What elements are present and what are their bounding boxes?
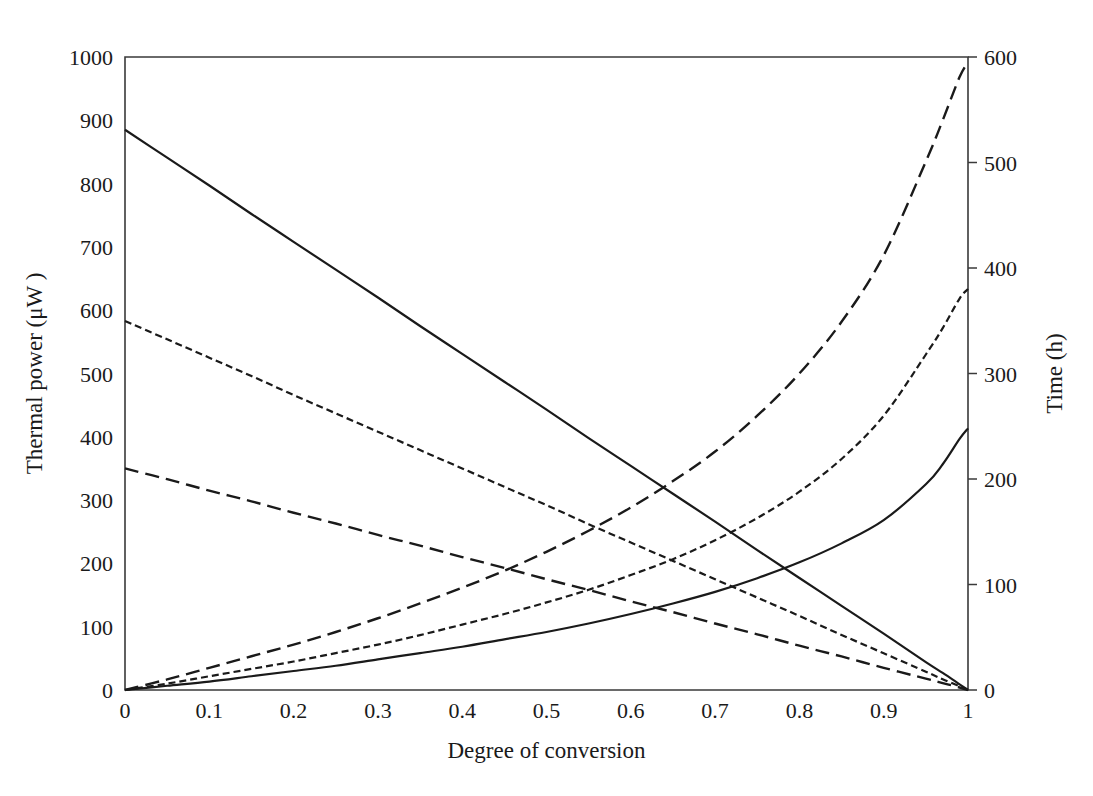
- y-left-tick-label: 1000: [69, 45, 113, 70]
- y-left-tick-label: 300: [80, 488, 113, 513]
- y-left-tick-label: 800: [80, 172, 113, 197]
- x-tick-label: 0.4: [448, 698, 476, 723]
- x-tick-label: 0.1: [196, 698, 224, 723]
- y-left-tick-label: 500: [80, 362, 113, 387]
- x-axis-title: Degree of conversion: [448, 738, 646, 763]
- chart-canvas: 00.10.20.30.40.50.60.70.80.9101002003004…: [0, 0, 1093, 796]
- y-right-axis-title: Time (h): [1042, 333, 1067, 413]
- x-tick-label: 0.2: [280, 698, 308, 723]
- y-right-tick-label: 0: [984, 678, 995, 703]
- y-left-tick-label: 600: [80, 298, 113, 323]
- series-line: [125, 130, 968, 690]
- x-tick-label: 0.9: [870, 698, 898, 723]
- y-left-tick-label: 0: [102, 678, 113, 703]
- y-right-tick-label: 300: [984, 362, 1017, 387]
- y-right-tick-label: 600: [984, 45, 1017, 70]
- x-tick-label: 0.6: [617, 698, 645, 723]
- axis-labels: 00.10.20.30.40.50.60.70.80.9101002003004…: [22, 45, 1067, 763]
- y-left-tick-label: 400: [80, 425, 113, 450]
- series-line: [125, 321, 968, 690]
- y-right-tick-label: 500: [984, 151, 1017, 176]
- series-line: [125, 289, 968, 690]
- y-left-tick-label: 100: [80, 615, 113, 640]
- y-left-tick-label: 900: [80, 108, 113, 133]
- plot-frame: [125, 57, 968, 690]
- x-tick-label: 1: [963, 698, 974, 723]
- y-right-tick-label: 400: [984, 256, 1017, 281]
- y-right-tick-label: 200: [984, 467, 1017, 492]
- x-tick-label: 0: [120, 698, 131, 723]
- plot-border: [125, 57, 968, 690]
- y-left-axis-title: Thermal power (μW ): [22, 273, 47, 475]
- x-tick-label: 0.3: [364, 698, 392, 723]
- series-line: [125, 428, 968, 690]
- y-left-tick-label: 700: [80, 235, 113, 260]
- x-tick-label: 0.8: [786, 698, 814, 723]
- axis-ticks: [968, 57, 977, 690]
- x-tick-label: 0.7: [701, 698, 729, 723]
- data-series: [125, 62, 968, 690]
- chart-figure: 00.10.20.30.40.50.60.70.80.9101002003004…: [0, 0, 1093, 796]
- y-left-tick-label: 200: [80, 551, 113, 576]
- y-right-tick-label: 100: [984, 573, 1017, 598]
- x-tick-label: 0.5: [533, 698, 561, 723]
